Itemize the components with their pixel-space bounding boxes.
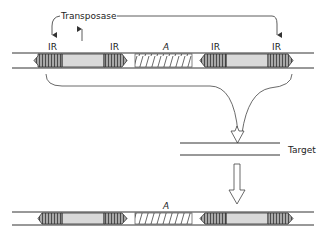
ir-block-left <box>34 54 62 67</box>
left-insertion-sequence <box>38 213 127 224</box>
hollow-arrow-down-icon <box>231 126 244 143</box>
is-body <box>62 54 104 67</box>
gene-a-label: A <box>162 201 169 211</box>
ir-block-right <box>268 213 293 224</box>
right-insertion-sequence <box>200 54 293 67</box>
transposase-arrow-right <box>117 16 277 35</box>
is-body <box>226 213 268 224</box>
bracket-right-curve <box>242 74 292 133</box>
right-insertion-sequence <box>200 213 293 224</box>
donor-dna: IR IR A IR IR <box>12 42 314 68</box>
is-body <box>226 54 268 67</box>
left-insertion-sequence <box>34 54 127 67</box>
product-dna: A <box>12 201 314 225</box>
target-dna: Target <box>180 143 316 155</box>
ir-block-left <box>200 213 226 224</box>
insertion-arrow-down-icon <box>229 164 245 204</box>
ir-block-left <box>38 213 62 224</box>
target-label: Target <box>287 145 316 155</box>
ir-block-left <box>200 54 226 67</box>
gene-a-segment <box>135 213 192 224</box>
ir-block-right <box>104 213 127 224</box>
transposase-label: Transposase <box>60 11 117 21</box>
transposition-diagram: IR IR A IR IR Transposase Target <box>0 0 326 237</box>
excision-bracket <box>46 74 292 143</box>
ir-label-3: IR <box>211 42 220 52</box>
is-body <box>62 213 104 224</box>
ir-block-right <box>268 54 293 67</box>
transposase-annotation: Transposase <box>52 11 277 41</box>
bracket-left-curve <box>46 74 238 133</box>
ir-block-right <box>104 54 127 67</box>
gene-a-segment <box>135 54 192 67</box>
gene-a-label: A <box>162 42 169 52</box>
ir-label-1: IR <box>48 42 57 52</box>
ir-label-4: IR <box>272 42 281 52</box>
transposase-arrow-left <box>52 16 60 35</box>
ir-label-2: IR <box>110 42 119 52</box>
